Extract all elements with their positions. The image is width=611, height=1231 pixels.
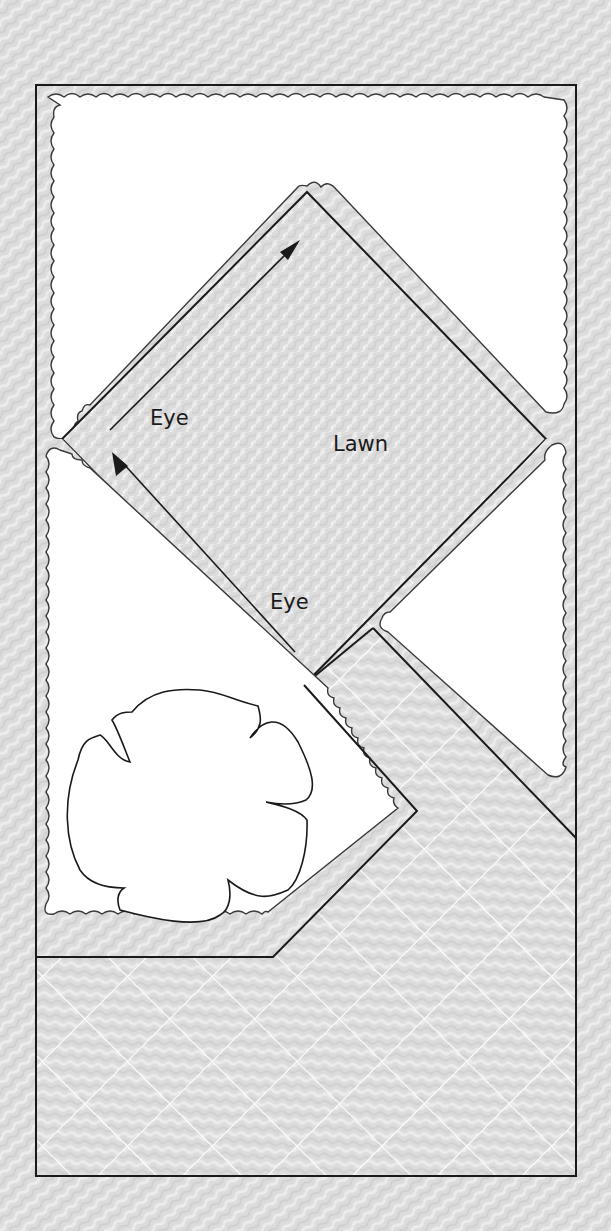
lawn-label: Lawn: [333, 432, 388, 456]
eye-label-upper: Eye: [150, 406, 189, 430]
garden-plan-diagram: Eye Lawn Eye: [0, 0, 611, 1231]
garden-plan-canvas: Eye Lawn Eye: [0, 0, 611, 1231]
eye-label-lower: Eye: [270, 590, 309, 614]
